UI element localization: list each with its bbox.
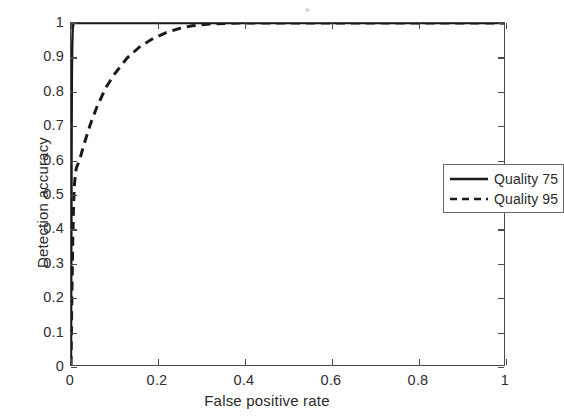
x-tick-1	[506, 23, 507, 29]
series-line-quality-75	[71, 23, 504, 365]
y-tick-0.5	[71, 195, 77, 196]
legend-line-sample-solid	[449, 173, 489, 185]
curves-svg	[71, 23, 504, 365]
y-tick-0.6	[71, 161, 77, 162]
legend-entry-quality-95[interactable]: Quality 95	[444, 189, 563, 209]
x-tick-0.2	[158, 23, 159, 29]
x-tick-label-0.8: 0.8	[408, 372, 429, 388]
y-axis-label: Detection accuracy	[34, 83, 51, 323]
y-tick-0	[498, 367, 504, 368]
x-tick-0	[71, 359, 72, 365]
series-group	[71, 23, 504, 365]
y-tick-0.1	[71, 333, 77, 334]
y-tick-0.8	[498, 92, 504, 93]
y-tick-0.8	[71, 92, 77, 93]
y-tick-0.3	[71, 264, 77, 265]
y-tick-0.4	[71, 229, 77, 230]
x-tick-0.4	[245, 359, 246, 365]
x-tick-1	[506, 359, 507, 365]
legend-line-sample-dashed	[449, 193, 489, 205]
y-tick-0.6	[498, 161, 504, 162]
legend-entry-quality-75[interactable]: Quality 75	[444, 169, 563, 189]
series-line-quality-95	[71, 23, 504, 365]
x-tick-0.6	[332, 359, 333, 365]
y-tick-0.2	[498, 298, 504, 299]
y-tick-0	[71, 367, 77, 368]
x-tick-label-0.4: 0.4	[234, 372, 255, 388]
y-tick-1	[498, 23, 504, 24]
y-tick-0.2	[71, 298, 77, 299]
y-tick-0.4	[498, 229, 504, 230]
scan-artifact-speck	[305, 8, 310, 12]
legend-label-quality-95: Quality 95	[494, 191, 558, 207]
x-axis-label: False positive rate	[0, 392, 534, 409]
y-tick-label-0.9: 0.9	[18, 48, 64, 64]
legend-label-quality-75: Quality 75	[494, 171, 558, 187]
y-tick-0.9	[498, 57, 504, 58]
x-tick-label-1: 1	[501, 372, 509, 388]
x-tick-label-0: 0	[66, 372, 74, 388]
x-tick-0.8	[419, 359, 420, 365]
chart-legend[interactable]: Quality 75 Quality 95	[443, 164, 564, 213]
x-tick-0.4	[245, 23, 246, 29]
y-tick-0.1	[498, 333, 504, 334]
y-tick-label-0.1: 0.1	[18, 324, 64, 340]
y-tick-0.3	[498, 264, 504, 265]
y-tick-label-0: 0	[18, 358, 64, 374]
x-tick-label-0.6: 0.6	[321, 372, 342, 388]
x-tick-label-0.2: 0.2	[147, 372, 168, 388]
y-tick-0.9	[71, 57, 77, 58]
y-tick-1	[71, 23, 77, 24]
y-tick-label-1: 1	[18, 14, 64, 30]
x-tick-0.8	[419, 23, 420, 29]
x-tick-0.6	[332, 23, 333, 29]
y-tick-0.7	[498, 126, 504, 127]
x-tick-0.2	[158, 359, 159, 365]
y-tick-0.7	[71, 126, 77, 127]
plot-area: Quality 75 Quality 95	[70, 22, 505, 366]
